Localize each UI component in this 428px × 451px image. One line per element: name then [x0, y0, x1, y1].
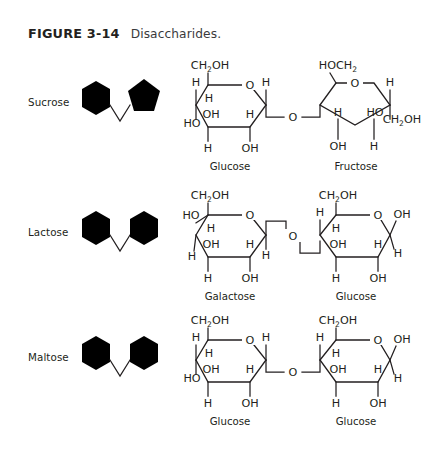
sugar-name-left: Glucose: [210, 416, 251, 427]
figure-title: Disaccharides.: [131, 27, 221, 41]
atom-oh-inner: OH: [202, 108, 219, 121]
atom-ch2oh-label: CH2OH: [319, 189, 357, 204]
atom-oh-anomeric: OH: [393, 208, 410, 221]
fructose-ring: HOCH2 O H CH2OH H HO OH: [319, 59, 421, 172]
atom-oh-inner: OH: [329, 363, 346, 376]
icon-link: [110, 105, 130, 121]
atom-h-fru-down: H: [370, 140, 378, 153]
icon-pair-maltose: [72, 322, 168, 392]
structure-lactose: CH2OH HO H H OH H OH: [178, 187, 428, 312]
atom-h-upper-left: H: [316, 206, 324, 219]
atom-h-fru-inner: H: [334, 106, 342, 119]
atom-ho: HO: [183, 117, 200, 130]
figure-number: FIGURE 3-14: [28, 26, 120, 41]
atom-oh-down: OH: [241, 397, 258, 410]
atom-ho: HO: [183, 372, 200, 385]
atom-h-c1: H: [262, 331, 270, 344]
atom-ho-fru-inner: HO: [366, 106, 383, 119]
sugar-name-right: Fructose: [334, 161, 377, 172]
atom-ho-axial: HO: [182, 209, 199, 222]
atom-ring-oxygen: O: [246, 209, 255, 222]
atom-h-fru-top: H: [386, 76, 394, 89]
atom-ch2oh-label: CH2OH: [191, 189, 229, 204]
atom-h-down: H: [332, 397, 340, 410]
atom-h-down: H: [332, 272, 340, 285]
atom-oh-down: OH: [369, 397, 386, 410]
atom-oh-fru-down: OH: [329, 140, 346, 153]
glucose-ring-right: CH2OH H H OH H OH H: [316, 189, 411, 302]
atom-oh-inner: OH: [329, 238, 346, 251]
figure-caption: FIGURE 3-14Disaccharides.: [28, 26, 221, 41]
atom-h-upper-left: H: [316, 331, 324, 344]
molecule-row-lactose: Lactose CH2OH HO H: [0, 187, 428, 312]
atom-oh-anomeric: OH: [393, 333, 410, 346]
atom-h-down: H: [204, 272, 212, 285]
hexagon-icon: [82, 211, 110, 245]
atom-h-c1: H: [262, 249, 270, 262]
atom-h-inner: H: [205, 92, 213, 105]
hexagon-icon: [82, 336, 110, 370]
atom-ring-oxygen-fru: O: [351, 77, 360, 90]
atom-ch2oh-label: CH2OH: [191, 59, 229, 74]
structure-maltose: CH2OH H HO H OH H OH H O H Glucose: [178, 312, 428, 437]
figure-container: FIGURE 3-14Disaccharides. Sucrose: [0, 0, 428, 451]
icon-link: [110, 360, 130, 376]
glycosidic-linkage: O: [266, 360, 320, 379]
atom-linkage-oxygen: O: [289, 111, 298, 124]
atom-ring-oxygen: O: [246, 334, 255, 347]
sugar-name-left: Glucose: [210, 161, 251, 172]
atom-ch2oh-label: CH2OH: [191, 314, 229, 329]
hexagon-icon: [130, 336, 158, 370]
atom-linkage-oxygen: O: [289, 230, 298, 243]
atom-h-down: H: [204, 142, 212, 155]
atom-h-inner: H: [205, 347, 213, 360]
glucose-ring-left: CH2OH H HO H OH H OH H O H Glucose: [183, 314, 270, 427]
structure-sucrose: CH2OH H HO H OH H OH: [178, 57, 428, 182]
atom-oh-down: OH: [369, 272, 386, 285]
hexagon-icon: [82, 81, 110, 115]
glucose-ring-left: CH2OH H HO H OH H OH: [183, 59, 270, 172]
atom-ring-oxygen: O: [246, 79, 255, 92]
molecule-row-maltose: Maltose CH2OH H HO H OH: [0, 312, 428, 437]
atom-h-c1: H: [262, 76, 270, 89]
atom-h-inner2: H: [374, 363, 382, 376]
sugar-name-right: Glucose: [336, 416, 377, 427]
molecule-row-sucrose: Sucrose CH2OH: [0, 57, 428, 182]
galactose-ring: CH2OH HO H H OH H OH: [182, 189, 270, 302]
atom-h-right: H: [394, 372, 402, 385]
glycosidic-linkage: O: [266, 221, 320, 253]
atom-h-inner: H: [207, 222, 215, 235]
atom-h-inner2: H: [246, 108, 254, 121]
atom-ch2oh-fru: CH2OH: [383, 113, 421, 128]
sugar-name-right: Glucose: [336, 291, 377, 302]
atom-h-inner: H: [332, 222, 340, 235]
atom-ring-oxygen: O: [374, 209, 383, 222]
pentagon-icon: [128, 79, 160, 111]
atom-oh-inner: OH: [202, 238, 219, 251]
atom-h-inner: H: [332, 347, 340, 360]
icon-pair-lactose: [72, 197, 168, 267]
atom-oh-down: OH: [241, 142, 258, 155]
atom-h-inner2: H: [374, 238, 382, 251]
glucose-ring-right: CH2OH H H OH H OH H O OH H Glucose: [316, 314, 411, 427]
atom-h-upper-left: H: [192, 331, 200, 344]
atom-h-lower-left: H: [188, 250, 196, 263]
atom-h-down: H: [204, 397, 212, 410]
atom-h-inner2: H: [246, 238, 254, 251]
sugar-name-left: Galactose: [205, 291, 256, 302]
atom-oh-inner: OH: [202, 363, 219, 376]
icon-link: [110, 235, 130, 251]
atom-h-right: H: [394, 247, 402, 260]
icon-pair-sucrose: [72, 67, 168, 137]
atom-oh-down: OH: [241, 272, 258, 285]
atom-hoch2: HOCH2: [319, 59, 357, 74]
atom-ring-oxygen: O: [374, 334, 383, 347]
atom-h: H: [192, 76, 200, 89]
atom-ch2oh-label: CH2OH: [319, 314, 357, 329]
glycosidic-linkage: O: [266, 105, 320, 124]
hexagon-icon: [130, 211, 158, 245]
atom-linkage-oxygen: O: [289, 366, 298, 379]
atom-h-inner2: H: [246, 363, 254, 376]
